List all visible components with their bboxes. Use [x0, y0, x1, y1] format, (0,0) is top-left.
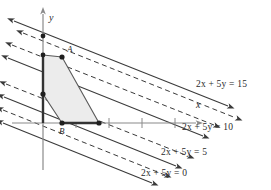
y-axis-label: y [49, 12, 53, 23]
vertex-dot-left-mid [41, 53, 46, 58]
label-line-0: 2x + 5y = 0 [141, 168, 187, 178]
figure-canvas [0, 0, 271, 190]
vertex-dot-right [96, 120, 101, 125]
label-line-15: 2x + 5y = 15 [196, 79, 247, 89]
level-line-0 [3, 123, 152, 183]
vertex-dot-b [59, 120, 64, 125]
point-label-b: B [59, 126, 65, 136]
level-line-group [3, 21, 236, 183]
level-line-10 [8, 58, 203, 136]
vertex-dot-a [59, 54, 64, 59]
vertex-dot-top [41, 34, 46, 39]
feasible-region [43, 55, 99, 123]
point-label-a: A [67, 44, 73, 54]
linear-programming-figure: 2x + 5y = 15 2x + 5y = 10 2x + 5y = 5 2x… [0, 0, 271, 190]
label-line-10: 2x + 5y = 10 [182, 122, 233, 132]
label-line-5: 2x + 5y = 5 [161, 147, 207, 157]
vertex-dot-left-low [40, 91, 45, 96]
x-axis-label: x [196, 99, 200, 110]
